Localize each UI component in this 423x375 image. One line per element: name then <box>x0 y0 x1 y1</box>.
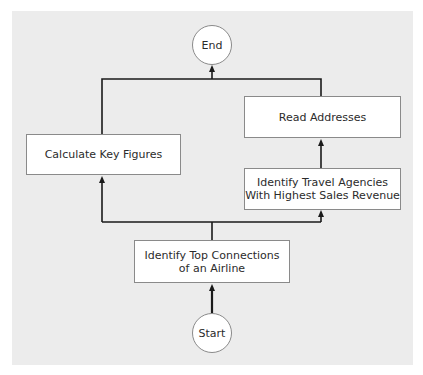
identify-top-connections-node: Identify Top Connections of an Airline <box>134 240 290 283</box>
arrow-to-calculate-icon <box>99 176 105 183</box>
start-label: Start <box>199 327 226 340</box>
identify-travel-agencies-node: Identify Travel Agencies With Highest Sa… <box>244 168 401 210</box>
arrow-to-end-icon <box>209 65 215 72</box>
arrow-to-travel-icon <box>318 210 324 217</box>
identify-travel-agencies-line1: Identify Travel Agencies <box>257 176 388 189</box>
arrow-to-top-connections-icon <box>209 284 215 291</box>
arrow-to-read-addresses-icon <box>318 139 324 146</box>
identify-top-connections-line2: of an Airline <box>179 262 245 275</box>
read-addresses-node: Read Addresses <box>244 96 401 138</box>
calculate-key-figures-label: Calculate Key Figures <box>45 148 163 161</box>
identify-travel-agencies-line2: With Highest Sales Revenue <box>245 189 400 202</box>
read-addresses-label: Read Addresses <box>279 111 366 124</box>
identify-top-connections-line1: Identify Top Connections <box>144 249 279 262</box>
travel-to-read-connector <box>318 139 324 168</box>
calculate-key-figures-node: Calculate Key Figures <box>26 134 181 175</box>
start-connector <box>209 284 215 313</box>
end-label: End <box>202 39 223 52</box>
start-node: Start <box>192 313 232 353</box>
end-node: End <box>192 25 232 65</box>
